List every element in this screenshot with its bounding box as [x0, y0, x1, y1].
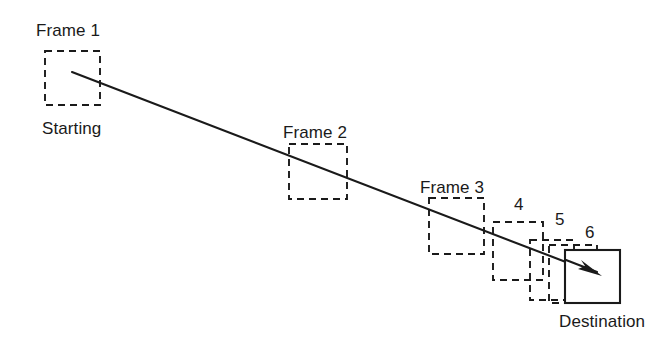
frame-5-label: 5 [555, 211, 565, 228]
destination-box [565, 250, 620, 303]
frame-2-label: Frame 2 [283, 124, 347, 141]
frame-4-label: 4 [514, 196, 524, 213]
starting-label: Starting [42, 120, 101, 137]
frame-1-label: Frame 1 [36, 22, 100, 39]
diagram-canvas: Frame 1 Starting Frame 2 Frame 3 4 5 6 D… [0, 0, 650, 347]
frame-box-2 [289, 144, 347, 199]
frame-3-label: Frame 3 [420, 179, 484, 196]
frame-box-1 [45, 51, 100, 105]
diagram-svg [0, 0, 650, 347]
frame-box-3 [429, 198, 484, 254]
trajectory-line [72, 72, 597, 274]
frame-6-label: 6 [585, 224, 595, 241]
destination-label: Destination [559, 313, 645, 330]
